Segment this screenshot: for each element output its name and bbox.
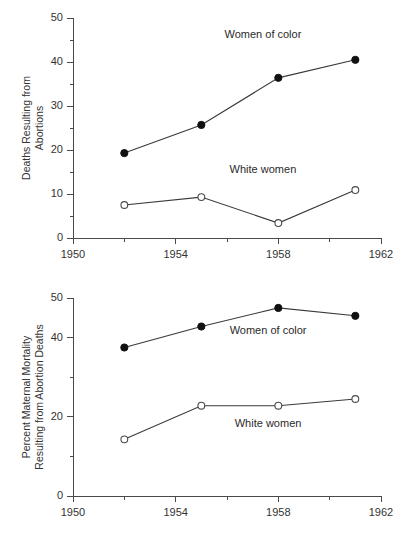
data-point-white-women	[198, 402, 205, 409]
bottom-chart-axes	[73, 298, 381, 496]
data-point-women-of-color	[198, 323, 205, 330]
series-line-women-of-color	[124, 60, 355, 153]
y-tick-label: 20	[51, 410, 63, 422]
top-y-ticks	[67, 18, 73, 238]
chart-panel-bottom: 0204050 1950195419581962 Women of colorW…	[0, 278, 408, 555]
data-point-women-of-color	[198, 121, 205, 128]
y-tick-label: 50	[51, 291, 63, 303]
series-annotation-white-women: White women	[230, 163, 297, 175]
y-tick-label: 0	[57, 231, 63, 243]
top-series-annotations: Women of colorWhite women	[225, 28, 302, 175]
data-point-white-women	[275, 220, 282, 227]
top-y-axis-title-line2: Abortions	[33, 106, 45, 150]
bottom-x-tick-labels: 1950195419581962	[61, 506, 393, 518]
x-tick-label: 1962	[369, 248, 393, 260]
data-point-white-women	[121, 436, 128, 443]
y-tick-label: 40	[51, 55, 63, 67]
top-x-tick-labels: 1950195419581962	[61, 248, 393, 260]
bottom-chart-svg: 0204050 1950195419581962 Women of colorW…	[0, 278, 408, 555]
x-tick-label: 1950	[61, 506, 85, 518]
bottom-series-annotations: Women of colorWhite women	[230, 324, 307, 429]
series-annotation-women-of-color: Women of color	[230, 324, 307, 336]
top-series-group	[121, 56, 359, 226]
bottom-y-axis-title-line1: Percent Maternal Mortality	[20, 335, 32, 458]
data-point-women-of-color	[275, 74, 282, 81]
bottom-y-tick-labels: 0204050	[51, 291, 63, 501]
x-tick-label: 1958	[266, 506, 290, 518]
top-y-axis-title-line1: Deaths Resulting from	[20, 76, 32, 180]
y-tick-label: 30	[51, 99, 63, 111]
y-tick-label: 20	[51, 143, 63, 155]
top-chart-svg: 01020304050 1950195419581962 Women of co…	[0, 0, 408, 278]
top-chart-axes	[73, 18, 381, 238]
series-annotation-women-of-color: Women of color	[225, 28, 302, 40]
y-tick-label: 50	[51, 11, 63, 23]
bottom-y-ticks	[67, 298, 73, 496]
data-point-women-of-color	[121, 344, 128, 351]
top-y-tick-labels: 01020304050	[51, 11, 63, 243]
series-line-white-women	[124, 190, 355, 223]
y-tick-label: 10	[51, 187, 63, 199]
data-point-women-of-color	[352, 56, 359, 63]
data-point-white-women	[352, 396, 359, 403]
data-point-women-of-color	[275, 304, 282, 311]
x-tick-label: 1962	[369, 506, 393, 518]
x-tick-label: 1950	[61, 248, 85, 260]
x-tick-label: 1954	[163, 248, 187, 260]
bottom-y-axis-title-line2: Resulting from Abortion Deaths	[33, 324, 45, 469]
data-point-white-women	[198, 194, 205, 201]
y-tick-label: 0	[57, 489, 63, 501]
bottom-x-ticks	[73, 496, 381, 502]
data-point-white-women	[352, 187, 359, 194]
chart-figure: 01020304050 1950195419581962 Women of co…	[0, 0, 408, 555]
data-point-white-women	[121, 202, 128, 209]
series-annotation-white-women: White women	[235, 417, 302, 429]
y-tick-label: 40	[51, 331, 63, 343]
data-point-women-of-color	[121, 149, 128, 156]
x-tick-label: 1954	[163, 506, 187, 518]
data-point-women-of-color	[352, 312, 359, 319]
data-point-white-women	[275, 402, 282, 409]
chart-panel-top: 01020304050 1950195419581962 Women of co…	[0, 0, 408, 278]
x-tick-label: 1958	[266, 248, 290, 260]
top-x-ticks	[73, 238, 381, 244]
